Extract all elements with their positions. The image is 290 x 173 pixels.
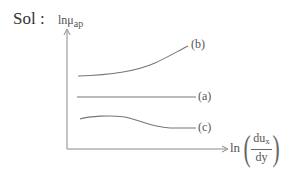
numerator-text: du <box>253 131 265 145</box>
curve-b-label: (b) <box>191 37 205 52</box>
curve-b <box>78 46 188 76</box>
curve-a-label: (a) <box>198 89 211 104</box>
curve-c-label: (c) <box>198 120 211 135</box>
fraction-numerator: dux <box>251 131 272 150</box>
numerator-subscript: x <box>265 136 270 146</box>
x-axis-label: ln ( dux dy ) <box>230 124 282 172</box>
x-axis-label-ln: ln <box>230 140 240 156</box>
left-paren: ( <box>244 130 251 166</box>
right-paren: ) <box>272 130 279 166</box>
fraction-denominator: dy <box>253 150 269 165</box>
curve-c <box>80 116 196 128</box>
x-axis-fraction: dux dy <box>251 131 272 165</box>
